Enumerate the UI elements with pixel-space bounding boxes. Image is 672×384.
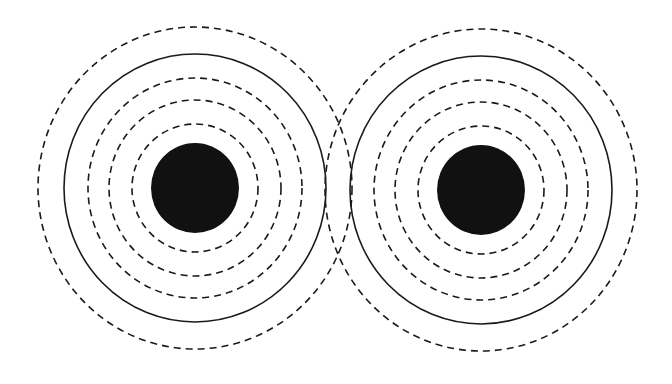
right-source-disc bbox=[437, 145, 525, 235]
left-source-disc bbox=[151, 143, 239, 233]
contour-diagram bbox=[0, 0, 672, 384]
background-rect bbox=[0, 0, 672, 384]
figure-canvas bbox=[0, 0, 672, 384]
